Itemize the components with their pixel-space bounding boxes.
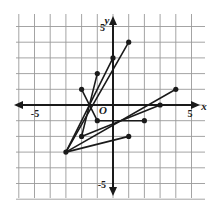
- data-point: [142, 118, 147, 123]
- data-point: [95, 71, 100, 76]
- origin-label: O: [99, 104, 107, 116]
- y-tick-label-neg5: -5: [98, 179, 106, 190]
- data-point: [126, 134, 131, 139]
- data-point: [110, 55, 115, 60]
- data-point: [63, 150, 68, 155]
- coordinate-plane: x y O -5 5 5 -5: [0, 0, 217, 208]
- data-point: [79, 134, 84, 139]
- y-tick-label-pos5: 5: [100, 22, 105, 33]
- data-point: [158, 102, 163, 107]
- x-tick-label-pos5: 5: [188, 108, 193, 119]
- data-point: [126, 40, 131, 45]
- x-axis-label: x: [200, 100, 207, 112]
- data-point: [173, 87, 178, 92]
- x-tick-label-neg5: -5: [31, 108, 39, 119]
- graph-figure: x y O -5 5 5 -5: [0, 0, 217, 208]
- data-point: [95, 118, 100, 123]
- data-point: [79, 87, 84, 92]
